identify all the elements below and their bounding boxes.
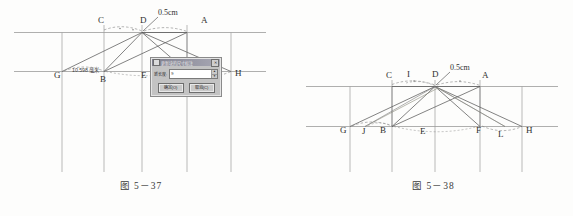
- arc-B-F: [394, 127, 478, 132]
- arc-tick-1: [413, 80, 414, 81]
- label-point-J: J: [362, 127, 366, 136]
- spinner-down-icon[interactable]: ▼: [212, 75, 217, 79]
- dialog-title-bar[interactable]: 更新块的尺寸标注 ✕: [152, 59, 220, 66]
- segment-B-D: [392, 87, 435, 127]
- arc-C-D: [104, 27, 142, 31]
- label-point-C: C: [98, 16, 104, 25]
- label-point-A: A: [201, 16, 208, 25]
- length-input[interactable]: 9: [170, 70, 211, 78]
- segment-G-D: [350, 87, 435, 127]
- segment-D-L: [435, 87, 505, 127]
- segment-D-H: [435, 87, 522, 127]
- dialog-title-text: 更新块的尺寸标注: [161, 59, 210, 65]
- arc-C-D: [392, 81, 435, 85]
- callout-0-5cm: 0.5cm: [158, 9, 178, 17]
- arc-D-A: [437, 82, 480, 86]
- ok-button[interactable]: 确定(O): [158, 83, 184, 93]
- label-point-E: E: [141, 71, 147, 80]
- dialog-button-row: 确定(O) 取消(C): [151, 83, 221, 93]
- label-point-A: A: [482, 71, 489, 80]
- segment-J-D-offset: [365, 88, 438, 127]
- window-icon: [153, 59, 160, 66]
- figure-5-37: C D A 0.5cm G B E H 10.598 毫米 图 5－37: [0, 0, 290, 216]
- dimension-text: 10.598 毫米: [72, 68, 99, 73]
- figure-caption-right: 图 5－38: [292, 178, 573, 192]
- segment-B-A: [392, 87, 480, 127]
- figure-5-38: C I D A 0.5cm G J B E F L H 图 5－38: [290, 0, 573, 216]
- label-point-E: E: [420, 127, 426, 136]
- length-input-wrapper[interactable]: 9 ▲ ▼: [169, 69, 218, 79]
- arc-tick-2: [459, 80, 460, 81]
- label-point-C: C: [386, 71, 392, 80]
- label-point-F: F: [476, 126, 481, 135]
- label-point-D: D: [140, 16, 147, 25]
- arc-tick-2: [132, 29, 133, 30]
- segment-D-F: [435, 87, 480, 127]
- label-point-D: D: [432, 70, 439, 79]
- scanned-page: C D A 0.5cm G B E H 10.598 毫米 图 5－37 更新块…: [0, 0, 573, 216]
- label-point-G: G: [340, 126, 347, 135]
- label-point-H: H: [526, 126, 533, 135]
- arc-tick-1: [119, 28, 120, 29]
- segment-B-D: [104, 33, 142, 72]
- figure-caption-left: 图 5－37: [0, 178, 286, 192]
- arc-D-A: [144, 28, 187, 32]
- label-point-L: L: [498, 130, 504, 139]
- length-spinner[interactable]: ▲ ▼: [211, 70, 217, 78]
- label-point-H: H: [235, 69, 242, 78]
- arc-I-D: [406, 82, 435, 86]
- length-field-label: 新长度:: [154, 71, 167, 77]
- cancel-button[interactable]: 取消(C): [189, 83, 215, 93]
- update-dimension-dialog[interactable]: 更新块的尺寸标注 ✕ 新长度: 9 ▲ ▼ 确定(O) 取消(C): [150, 57, 222, 97]
- callout-0-5cm: 0.5cm: [450, 64, 470, 72]
- segment-J-D: [365, 87, 435, 127]
- label-point-B: B: [380, 126, 386, 135]
- dialog-field-row: 新长度: 9 ▲ ▼: [154, 69, 218, 79]
- label-point-B: B: [100, 75, 106, 84]
- label-point-G: G: [54, 71, 61, 80]
- segment-G-D: [62, 33, 142, 72]
- label-point-I: I: [407, 70, 410, 79]
- close-icon[interactable]: ✕: [211, 59, 219, 67]
